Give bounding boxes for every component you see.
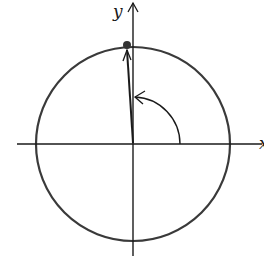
radius-vector <box>127 50 133 143</box>
x-axis-label: x <box>259 133 264 153</box>
point-on-circle <box>123 41 131 49</box>
y-axis-label: y <box>112 1 123 21</box>
unit-circle-diagram: y x <box>0 0 264 256</box>
angle-arc <box>135 97 180 144</box>
